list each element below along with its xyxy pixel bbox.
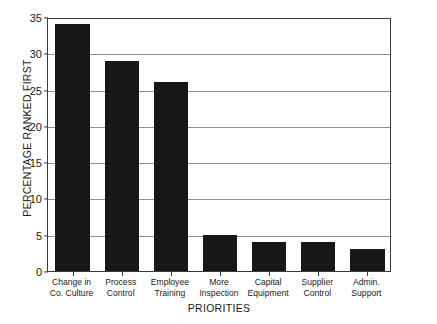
bar [252,242,286,271]
plot-area: 35302520151050 [47,18,391,272]
x-axis-title: PRIORITIES [47,302,391,314]
bar [55,24,89,271]
y-tick-label: 10 [30,193,42,205]
x-axis-labels: Change inCo. CultureProcessControlEmploy… [47,277,391,305]
bars-group [48,18,390,271]
x-tick-label: SupplierControl [293,277,342,298]
x-tick-mark [367,271,368,276]
x-tick-label: ProcessControl [96,277,145,298]
y-tick-label: 15 [30,157,42,169]
x-tick-label: EmployeeTraining [145,277,194,298]
x-tick-label: MoreInspection [194,277,243,298]
x-tick-mark [171,271,172,276]
bar [105,61,139,271]
x-tick-mark [122,271,123,276]
x-tick-mark [73,271,74,276]
bar [301,242,335,271]
x-tick-mark [269,271,270,276]
x-tick-mark [318,271,319,276]
y-tick-label: 35 [30,12,42,24]
y-tick-label: 0 [36,266,42,278]
x-tick-label: CapitalEquipment [244,277,293,298]
x-tick-label: Admin.Support [342,277,391,298]
bar [154,82,188,271]
y-axis-title: PERCENTAGE RANKED FIRST [18,2,36,274]
bar [203,235,237,271]
bar [350,249,384,271]
y-tick-label: 30 [30,48,42,60]
x-tick-mark [220,271,221,276]
bar-chart: PERCENTAGE RANKED FIRST 35302520151050 C… [0,0,437,324]
y-tick-label: 20 [30,121,42,133]
y-tick-label: 25 [30,85,42,97]
y-tick-label: 5 [36,230,42,242]
y-tick-mark [44,271,48,272]
x-tick-label: Change inCo. Culture [47,277,96,298]
